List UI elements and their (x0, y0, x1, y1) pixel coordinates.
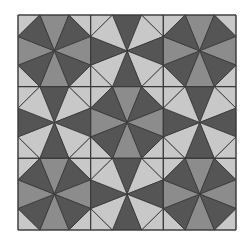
tiling-cells (18, 15, 236, 230)
tile-cell (91, 87, 164, 159)
tile-cell (18, 15, 91, 87)
tile-cell (91, 15, 164, 87)
tile-cell (18, 87, 91, 159)
tile-cell (18, 158, 91, 230)
tile-cell (163, 158, 236, 230)
tile-cell (91, 158, 164, 230)
tile-cell (163, 87, 236, 159)
tiling-pattern (0, 0, 250, 243)
tile-cell (163, 15, 236, 87)
